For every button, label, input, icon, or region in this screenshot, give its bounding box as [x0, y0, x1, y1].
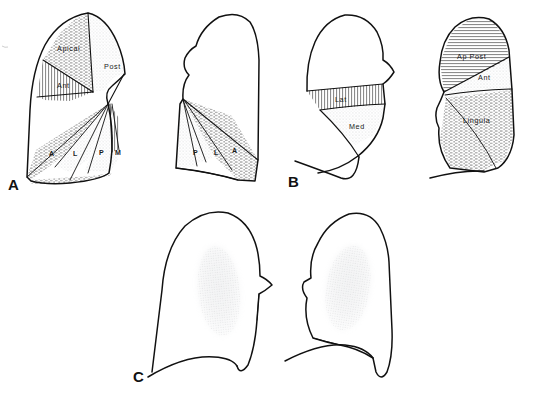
panel-letter-c: C	[133, 368, 144, 385]
panel-c-lung-left: C	[133, 212, 272, 385]
label-lower-p: P	[99, 149, 104, 156]
label-lat: Lat	[335, 95, 347, 104]
panel-letter-b: B	[288, 173, 299, 190]
segment-lingula-fill	[440, 90, 514, 170]
label-ant-b: Ant	[478, 73, 491, 82]
diaphragm-c-left	[148, 357, 237, 377]
label-apical: Apical	[57, 44, 80, 53]
lung-segment-figure: Apical Post Ant A L P M P L A A	[0, 0, 537, 402]
figure-canvas: Apical Post Ant A L P M P L A A	[0, 0, 537, 402]
label-right-a: A	[232, 147, 237, 154]
panel-a-lung-left: Apical Post Ant A L P M	[27, 13, 125, 184]
panel-a: Apical Post Ant A L P M P L A A	[8, 13, 259, 193]
label-lower-a: A	[49, 150, 54, 157]
label-post: Post	[104, 62, 121, 71]
panel-letter-a: A	[8, 176, 19, 193]
label-right-p: P	[193, 149, 198, 156]
diaphragm-b-right	[430, 171, 484, 178]
panel-a-lung-right: P L A	[176, 14, 259, 181]
opacity-texture-right	[320, 242, 377, 334]
label-lower-m: M	[115, 149, 121, 156]
panel-c-lung-right	[285, 213, 392, 377]
hilum-notch-c-right	[313, 338, 340, 345]
label-ap-post: Ap Post	[457, 52, 486, 61]
label-ant: Ant	[57, 81, 70, 90]
panel-b-lung-left: Lat Med	[295, 15, 394, 179]
panel-b-lung-right: Ap Post Ant Lingula	[430, 18, 514, 178]
scan-artifact	[2, 46, 8, 47]
label-med: Med	[349, 122, 365, 131]
panel-b: Lat Med Ap Post Ant Lingula B	[288, 15, 514, 190]
diaphragm-c-right	[285, 345, 373, 361]
label-lingula: Lingula	[463, 116, 490, 125]
label-right-l: L	[214, 149, 219, 156]
label-lower-l: L	[73, 150, 78, 157]
diaphragm-b-left	[295, 157, 359, 179]
panel-c: C	[133, 212, 392, 385]
